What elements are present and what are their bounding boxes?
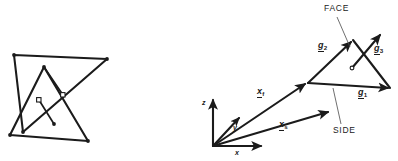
open-circle-marker-2 xyxy=(37,98,41,102)
vertex-dot xyxy=(105,57,109,61)
vertex-dot xyxy=(42,65,46,69)
g1-vector-base: g xyxy=(358,87,364,99)
x-s-vector-label: xs xyxy=(279,120,287,129)
normal-segment-2 xyxy=(39,100,54,124)
open-circle-marker-1 xyxy=(61,93,65,97)
x-f-vector-label: xf xyxy=(257,87,264,96)
side-callout-leader xyxy=(333,88,341,124)
g1-vector-subscript: 1 xyxy=(364,91,367,98)
vertex-dot xyxy=(86,139,90,143)
x-axis-label: x xyxy=(235,149,239,156)
x-s-vector xyxy=(213,112,328,146)
face-callout-label: FACE xyxy=(324,4,349,13)
x-f-vector-subscript: f xyxy=(262,90,264,97)
g2-vector-label: g2 xyxy=(318,41,327,50)
x-s-vector-subscript: s xyxy=(284,123,287,130)
g2-vector-subscript: 2 xyxy=(324,44,327,51)
vertex-dot xyxy=(12,53,16,57)
g2-vector xyxy=(308,42,351,83)
normal-segment-1 xyxy=(44,67,63,95)
face-callout-leader xyxy=(337,17,350,47)
g1-vector xyxy=(308,83,388,88)
left-panel-group xyxy=(8,53,109,143)
technical-diagram-figure: z y x xf xs g1 g2 g3 FACE SIDE xyxy=(0,0,398,161)
z-axis-label: z xyxy=(202,99,206,106)
vertex-dot xyxy=(8,133,12,137)
g2-vector-base: g xyxy=(318,40,324,52)
g3-vector-subscript: 3 xyxy=(380,47,383,54)
y-axis-label: y xyxy=(233,124,237,131)
g3-origin-marker xyxy=(350,66,354,70)
side-callout-label: SIDE xyxy=(333,126,356,135)
vertex-dot xyxy=(52,122,56,126)
diagram-canvas xyxy=(0,0,398,161)
right-panel-group xyxy=(213,17,390,146)
face-triangle-right-edge xyxy=(353,40,390,88)
g1-vector-label: g1 xyxy=(358,88,367,97)
vertex-dot xyxy=(21,130,25,134)
g3-vector-base: g xyxy=(374,43,380,55)
g3-vector-label: g3 xyxy=(374,44,383,53)
